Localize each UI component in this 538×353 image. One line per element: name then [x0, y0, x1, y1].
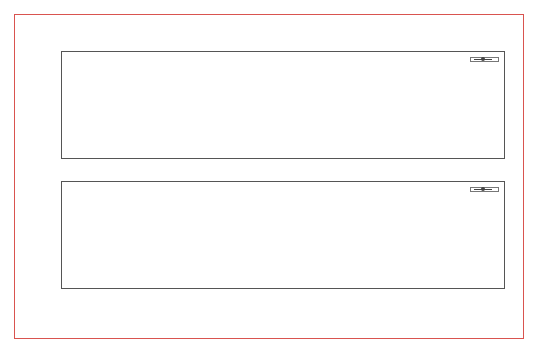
legend-close-price [470, 187, 499, 192]
legend-open-price [470, 57, 499, 62]
close-price-plot [61, 181, 505, 289]
chart-frame [14, 14, 524, 339]
open-price-line-svg [62, 52, 504, 158]
legend-marker-close-icon [474, 189, 492, 190]
open-price-plot [61, 51, 505, 159]
close-price-line-svg [62, 182, 504, 288]
legend-marker-open-icon [474, 59, 492, 60]
